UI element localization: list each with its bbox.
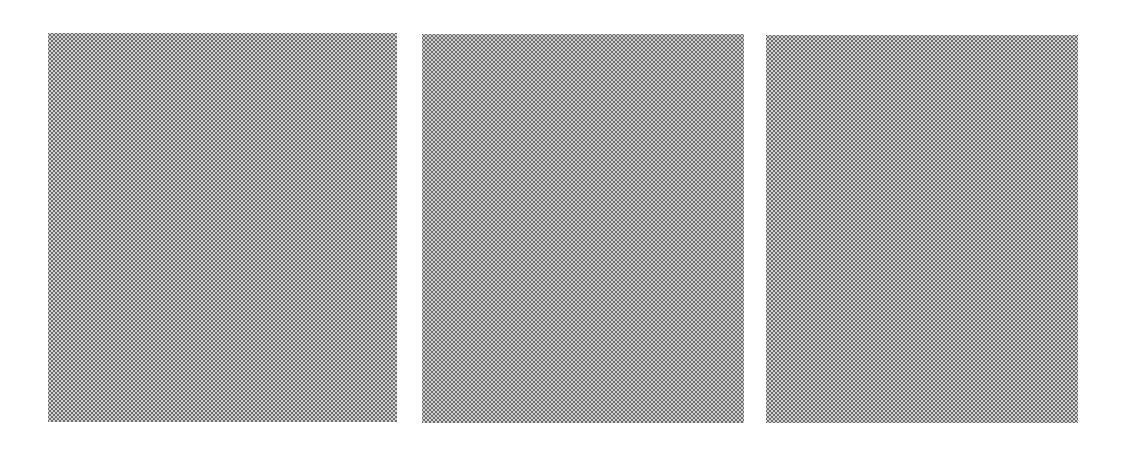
halftone-panel-middle [422,34,744,423]
halftone-panel-left [48,33,397,422]
halftone-panel-right [766,35,1078,423]
